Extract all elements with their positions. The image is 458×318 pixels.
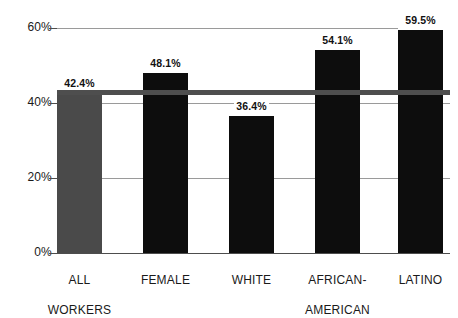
x-category-white-line1: WHITE (209, 273, 294, 288)
bar-value-all-workers-text: 42.4% (62, 78, 96, 89)
bar-latino (398, 30, 443, 253)
y-tick-40: 40% (0, 103, 52, 104)
y-tick-label-0: 0% (6, 246, 52, 258)
y-tick-dash-40 (49, 103, 57, 104)
reference-line-all-workers (57, 90, 450, 95)
y-tick-label-40: 40% (6, 96, 52, 108)
x-category-latino-line1: LATINO (383, 273, 458, 288)
x-category-all-workers-line1: ALL (37, 273, 122, 288)
y-tick-60: 60% (0, 28, 52, 29)
bar-value-female-text: 48.1% (148, 58, 182, 69)
y-tick-0: 0% (0, 253, 52, 254)
bar-female (143, 73, 188, 253)
bar-white (229, 116, 274, 253)
y-tick-label-60: 60% (6, 21, 52, 33)
bar-value-latino-text: 59.5% (403, 15, 437, 26)
x-category-all-workers-line2: WORKERS (37, 303, 122, 318)
x-category-latino: LATINO (383, 258, 458, 303)
bar-value-african-american-text: 54.1% (320, 35, 354, 46)
bar-value-all-workers: 42.4% (57, 78, 102, 89)
y-tick-dash-60 (49, 28, 57, 29)
gridline-60 (57, 28, 398, 29)
bar-value-african-american: 54.1% (315, 35, 360, 46)
axis-baseline (57, 253, 450, 254)
bar-value-white: 36.4% (229, 101, 274, 112)
x-category-african-american-line1: AFRICAN- (285, 273, 390, 288)
bar-value-female: 48.1% (143, 58, 188, 69)
y-tick-20: 20% (0, 178, 52, 179)
bar-african-american (315, 50, 360, 253)
x-category-african-american: AFRICAN- AMERICAN (285, 258, 390, 318)
bar-all-workers (57, 94, 102, 253)
bar-value-latino: 59.5% (398, 15, 443, 26)
x-category-female: FEMALE (123, 258, 208, 303)
bar-value-white-text: 36.4% (234, 101, 268, 112)
y-tick-label-20: 20% (6, 171, 52, 183)
y-tick-dash-20 (49, 178, 57, 179)
x-category-all-workers: ALL WORKERS (37, 258, 122, 318)
x-category-african-american-line2: AMERICAN (285, 303, 390, 318)
x-category-female-line1: FEMALE (123, 273, 208, 288)
x-category-white: WHITE (209, 258, 294, 303)
y-tick-dash-0 (49, 253, 57, 254)
